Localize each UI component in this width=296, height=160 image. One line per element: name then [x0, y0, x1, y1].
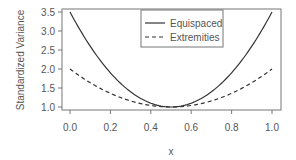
y-axis-label: Standardized Variance [15, 9, 26, 110]
y-axis: 1.01.52.02.53.03.5 [41, 7, 62, 113]
x-tick-label: 0.6 [184, 122, 198, 133]
x-axis: 0.00.20.40.60.81.0 [63, 110, 279, 133]
y-tick-label: 1.5 [41, 83, 55, 94]
y-tick-label: 1.0 [41, 102, 55, 113]
legend-label-equispaced: Equispaced [170, 18, 222, 29]
legend-label-extremities: Extremities [170, 32, 219, 43]
legend: Equispaced Extremities [141, 10, 223, 47]
y-tick-label: 3.5 [41, 7, 55, 18]
variance-chart: 1.01.52.02.53.03.5 0.00.20.40.60.81.0 St… [0, 0, 296, 160]
y-tick-label: 3.0 [41, 26, 55, 37]
x-tick-label: 0.0 [63, 122, 77, 133]
x-axis-label: x [169, 146, 174, 157]
series-line-extremities [70, 69, 272, 107]
x-tick-label: 1.0 [265, 122, 279, 133]
y-tick-label: 2.5 [41, 45, 55, 56]
x-tick-label: 0.2 [103, 122, 117, 133]
y-tick-label: 2.0 [41, 64, 55, 75]
x-tick-label: 0.4 [144, 122, 158, 133]
x-tick-label: 0.8 [225, 122, 239, 133]
